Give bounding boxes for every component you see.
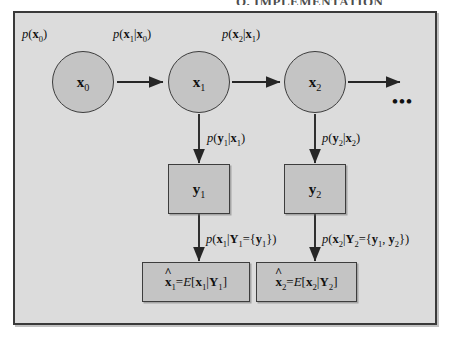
label-emission-y2-given-x2: p(y2|x2) [322, 131, 360, 146]
state-node-x1-label: x1 [193, 74, 206, 91]
estimate-node-xhat2[interactable]: ^x2=E[x2|Y2] [256, 262, 357, 302]
observation-node-y2[interactable]: y2 [284, 164, 346, 214]
state-node-x1[interactable]: x1 [168, 51, 230, 113]
observation-node-y1[interactable]: y1 [168, 164, 230, 214]
state-node-x2-label: x2 [309, 74, 322, 91]
figure-canvas: Q. IMPLEMENTATION p(x0) p(x1|x0) p(x2|x1 [0, 0, 452, 344]
ellipsis-continuation: ••• [392, 92, 413, 112]
state-node-x0-label: x0 [77, 74, 90, 91]
label-posterior-x2: p(x2|Y2={y1, y2}) [322, 232, 409, 247]
label-emission-y1-given-x1: p(y1|x1) [207, 131, 245, 146]
estimate-node-xhat1[interactable]: ^x1=E[x1|Y1] [142, 262, 250, 302]
label-posterior-x1: p(x1|Y1={y1}) [206, 232, 276, 247]
label-prior-x0: p(x0) [22, 27, 47, 42]
observation-node-y2-label: y2 [309, 181, 322, 198]
cropped-header-text: Q. IMPLEMENTATION [236, 0, 446, 5]
state-node-x2[interactable]: x2 [284, 51, 346, 113]
label-transition-x1-given-x0: p(x1|x0) [113, 27, 151, 42]
estimate-node-xhat1-label: ^x1=E[x1|Y1] [165, 274, 227, 290]
label-transition-x2-given-x1: p(x2|x1) [222, 27, 260, 42]
observation-node-y1-label: y1 [193, 181, 206, 198]
state-node-x0[interactable]: x0 [52, 51, 114, 113]
estimate-node-xhat2-label: ^x2=E[x2|Y2] [275, 274, 337, 290]
